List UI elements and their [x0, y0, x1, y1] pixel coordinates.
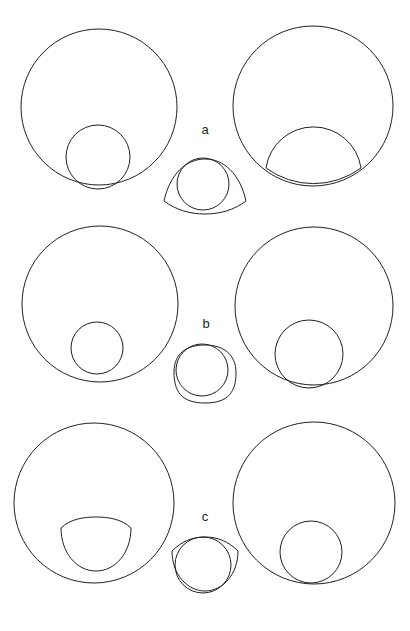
figure-root: a b [0, 0, 410, 631]
row-label-a: a [201, 122, 209, 137]
row-label-b: b [202, 316, 209, 331]
figure-canvas: a b [0, 0, 410, 631]
row-label-c: c [202, 509, 209, 524]
